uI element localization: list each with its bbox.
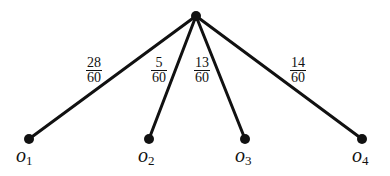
numerator: 28: [86, 56, 102, 71]
tree-canvas: [0, 0, 390, 176]
probability-o2: 560: [151, 56, 167, 85]
numerator: 5: [151, 56, 167, 71]
probability-o3: 1360: [194, 56, 210, 85]
denominator: 60: [290, 71, 306, 85]
outcome-symbol: o: [235, 144, 245, 166]
outcome-label-o1: o1: [16, 144, 33, 169]
outcome-subscript: 1: [26, 153, 33, 168]
leaf-node-o1: [24, 134, 34, 144]
outcome-subscript: 3: [245, 153, 252, 168]
outcome-subscript: 4: [362, 153, 369, 168]
outcome-label-o4: o4: [352, 144, 369, 169]
outcome-label-o2: o2: [138, 144, 155, 169]
root-node: [191, 11, 201, 21]
leaf-node-o4: [357, 134, 367, 144]
probability-o1: 2860: [86, 56, 102, 85]
leaf-node-o3: [240, 134, 250, 144]
numerator: 14: [290, 56, 306, 71]
outcome-symbol: o: [138, 144, 148, 166]
outcome-symbol: o: [16, 144, 26, 166]
denominator: 60: [151, 71, 167, 85]
numerator: 13: [194, 56, 210, 71]
denominator: 60: [194, 71, 210, 85]
outcome-label-o3: o3: [235, 144, 252, 169]
outcome-symbol: o: [352, 144, 362, 166]
leaf-node-o2: [144, 134, 154, 144]
denominator: 60: [86, 71, 102, 85]
outcome-subscript: 2: [148, 153, 155, 168]
probability-o4: 1460: [290, 56, 306, 85]
